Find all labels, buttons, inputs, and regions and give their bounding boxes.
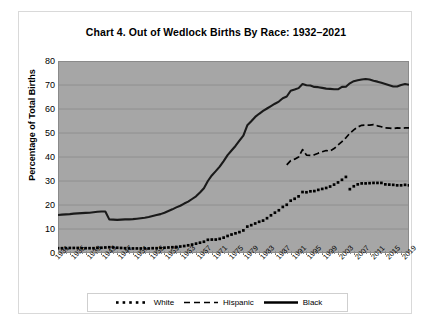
- data-point-white: [297, 195, 300, 198]
- x-axis-minor-tickmark: [97, 251, 98, 254]
- dashed-line-icon: [182, 298, 220, 307]
- x-axis-minor-tickmark: [291, 251, 292, 254]
- x-axis-minor-tickmark: [224, 251, 225, 254]
- data-point-white: [250, 224, 253, 227]
- data-point-white: [218, 237, 221, 240]
- x-axis-minor-tickmark: [86, 251, 87, 254]
- data-point-white: [333, 183, 336, 186]
- x-axis-minor-tickmark: [93, 251, 94, 254]
- data-point-white: [278, 209, 281, 212]
- data-point-white: [242, 229, 245, 232]
- x-axis-minor-tickmark: [204, 251, 205, 254]
- x-axis-minor-tickmark: [287, 251, 288, 254]
- data-point-white: [356, 183, 359, 186]
- data-series-layer: [58, 61, 409, 253]
- y-axis-tick-70: 70: [33, 80, 55, 90]
- y-axis-tick-60: 60: [33, 104, 55, 114]
- x-axis-minor-tickmark: [192, 251, 193, 254]
- x-axis-minor-tickmark: [105, 251, 106, 254]
- data-point-white: [230, 233, 233, 236]
- data-point-white: [199, 241, 202, 244]
- x-axis-minor-tickmark: [255, 251, 256, 254]
- data-point-white: [384, 183, 387, 186]
- data-point-white: [238, 231, 241, 234]
- data-point-white: [246, 225, 249, 228]
- data-point-white: [210, 238, 213, 241]
- x-axis-minor-tickmark: [322, 251, 323, 254]
- x-axis-minor-tickmark: [137, 251, 138, 254]
- x-axis-minor-tickmark: [164, 251, 165, 254]
- x-axis-minor-tickmark: [117, 251, 118, 254]
- x-axis-minor-tickmark: [370, 251, 371, 254]
- x-axis-minor-tickmark: [70, 251, 71, 254]
- data-point-white: [317, 189, 320, 192]
- x-axis-minor-tickmark: [295, 251, 296, 254]
- y-axis-tick-80: 80: [33, 56, 55, 66]
- dotted-line-icon: [113, 298, 151, 307]
- x-axis-minor-tickmark: [330, 251, 331, 254]
- data-point-white: [285, 203, 288, 206]
- x-axis-minor-tickmark: [326, 251, 327, 254]
- data-point-white: [226, 235, 229, 238]
- x-axis-minor-tickmark: [161, 251, 162, 254]
- x-axis-minor-tickmark: [299, 251, 300, 254]
- data-point-white: [258, 220, 261, 223]
- data-point-white: [388, 183, 391, 186]
- data-point-white: [293, 197, 296, 200]
- series-line-hispanic: [287, 125, 409, 165]
- x-axis-minor-tickmark: [401, 251, 402, 254]
- x-axis-minor-tickmark: [121, 251, 122, 254]
- legend-item-white[interactable]: White: [113, 298, 174, 307]
- data-point-white: [254, 222, 257, 225]
- x-axis-minor-tickmark: [409, 251, 410, 254]
- legend-item-black[interactable]: Black: [262, 298, 323, 307]
- chart-title: Chart 4. Out of Wedlock Births By Race: …: [19, 26, 413, 38]
- x-axis-minor-tickmark: [232, 251, 233, 254]
- x-axis-minor-tickmark: [385, 251, 386, 254]
- y-axis-tick-50: 50: [33, 128, 55, 138]
- data-point-white: [234, 232, 237, 235]
- legend-item-hispanic[interactable]: Hispanic: [182, 298, 254, 307]
- x-axis-minor-tickmark: [235, 251, 236, 254]
- x-axis-minor-tickmark: [283, 251, 284, 254]
- x-axis-minor-tickmark: [243, 251, 244, 254]
- data-point-white: [274, 211, 277, 214]
- x-axis-minor-tickmark: [172, 251, 173, 254]
- data-point-white: [348, 188, 351, 191]
- x-axis-minor-tickmark: [200, 251, 201, 254]
- x-axis-minor-tickmark: [176, 251, 177, 254]
- x-axis-minor-tickmark: [184, 251, 185, 254]
- data-point-white: [309, 190, 312, 193]
- x-axis-minor-tickmark: [133, 251, 134, 254]
- x-axis-minor-tickmark: [145, 251, 146, 254]
- plot-region: [58, 61, 409, 253]
- y-axis-tick-30: 30: [33, 176, 55, 186]
- data-point-white: [345, 176, 348, 179]
- x-axis-minor-tickmark: [188, 251, 189, 254]
- data-point-white: [364, 182, 367, 185]
- data-point-white: [380, 182, 383, 185]
- data-point-white: [337, 181, 340, 184]
- x-axis-minor-tickmark: [271, 251, 272, 254]
- x-axis-minor-tickmark: [259, 251, 260, 254]
- x-axis-minor-tickmark: [362, 251, 363, 254]
- y-axis-tick-labels: 01020304050607080: [29, 61, 55, 253]
- x-axis-minor-tickmark: [377, 251, 378, 254]
- data-point-white: [368, 182, 371, 185]
- y-axis-tick-40: 40: [33, 152, 55, 162]
- data-point-white: [372, 182, 375, 185]
- x-axis-minor-tickmark: [303, 251, 304, 254]
- x-axis-minor-tickmark: [220, 251, 221, 254]
- legend-label: Black: [303, 298, 323, 307]
- data-point-white: [203, 240, 206, 243]
- x-axis-minor-tickmark: [247, 251, 248, 254]
- y-axis-tick-0: 0: [33, 248, 55, 258]
- x-axis-minor-tickmark: [279, 251, 280, 254]
- x-axis-tick-labels: 1931193519391943194719511955195919631967…: [58, 255, 409, 289]
- chart-container: Chart 4. Out of Wedlock Births By Race: …: [18, 11, 412, 314]
- x-axis-minor-tickmark: [228, 251, 229, 254]
- x-axis-minor-tickmark: [342, 251, 343, 254]
- data-point-white: [352, 185, 355, 188]
- data-point-white: [262, 219, 265, 222]
- x-axis-minor-tickmark: [389, 251, 390, 254]
